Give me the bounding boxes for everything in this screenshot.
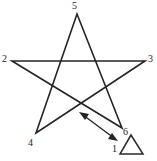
vertex-label-6: 6 [123,127,128,137]
pentagram-outline [12,14,145,133]
vertex-label-5: 5 [72,1,77,11]
vertex-label-2: 2 [2,54,7,64]
figure-canvas [0,0,157,161]
small-triangle-marker-icon [120,135,143,154]
vertex-label-3: 3 [148,54,153,64]
double-arrow-shaft [83,115,114,138]
pentagram-figure: 5 2 3 4 6 1 [0,0,157,161]
vertex-label-4: 4 [28,138,33,148]
vertex-label-1: 1 [112,144,117,154]
